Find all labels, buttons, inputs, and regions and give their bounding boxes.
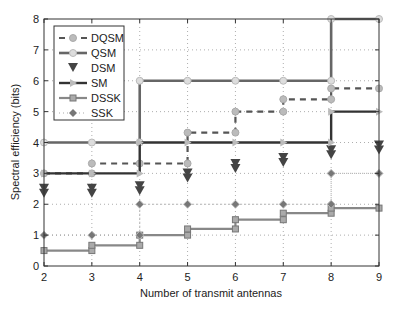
square-marker xyxy=(137,242,143,248)
triangle-down-marker xyxy=(326,150,336,159)
square-marker xyxy=(70,95,76,101)
circle-marker xyxy=(280,108,287,115)
diamond-marker xyxy=(136,200,144,208)
triangle-right-marker xyxy=(232,139,239,147)
y-tick-label: 5 xyxy=(33,106,39,118)
circle-marker xyxy=(232,129,239,136)
series-dsm xyxy=(39,141,384,198)
series-dssk xyxy=(41,205,382,253)
x-tick-label: 8 xyxy=(328,271,334,283)
triangle-down-marker xyxy=(230,164,240,173)
legend: DQSMQSMDSMSMDSSKSSK xyxy=(54,26,124,120)
star-marker xyxy=(328,77,335,84)
square-marker xyxy=(280,210,286,216)
diamond-marker xyxy=(327,169,335,177)
triangle-down-marker xyxy=(87,189,97,198)
spectral-efficiency-chart: 23456789012345678 Number of transmit ant… xyxy=(0,0,398,312)
legend-label-dqsm: DQSM xyxy=(91,32,124,44)
x-tick-label: 3 xyxy=(89,271,95,283)
circle-marker xyxy=(328,85,335,92)
star-marker xyxy=(88,139,95,146)
square-marker xyxy=(232,217,238,223)
triangle-down-marker xyxy=(183,173,193,182)
square-marker xyxy=(89,242,95,248)
y-tick-label: 1 xyxy=(33,229,39,241)
diamond-marker xyxy=(184,200,192,208)
triangle-right-marker xyxy=(280,139,287,147)
star-marker xyxy=(184,77,191,84)
circle-marker xyxy=(184,129,191,136)
y-tick-label: 8 xyxy=(33,13,39,25)
y-tick-label: 2 xyxy=(33,198,39,210)
star-marker xyxy=(70,50,77,57)
triangle-down-marker xyxy=(278,158,288,167)
star-marker xyxy=(232,77,239,84)
y-tick-label: 6 xyxy=(33,75,39,87)
square-marker xyxy=(185,232,191,238)
diamond-marker xyxy=(279,200,287,208)
circle-marker xyxy=(232,108,239,115)
x-tick-label: 6 xyxy=(232,271,238,283)
y-tick-label: 4 xyxy=(33,137,39,149)
legend-label-dssk: DSSK xyxy=(91,92,122,104)
star-marker xyxy=(136,77,143,84)
legend-label-ssk: SSK xyxy=(91,107,114,119)
x-axis-label: Number of transmit antennas xyxy=(140,287,282,299)
y-tick-label: 3 xyxy=(33,167,39,179)
diamond-marker xyxy=(88,231,96,239)
x-tick-label: 4 xyxy=(137,271,143,283)
circle-marker xyxy=(88,160,95,167)
legend-label-sm: SM xyxy=(91,77,108,89)
y-tick-label: 7 xyxy=(33,44,39,56)
x-tick-label: 9 xyxy=(376,271,382,283)
square-marker xyxy=(232,226,238,232)
circle-marker xyxy=(184,160,191,167)
x-tick-label: 7 xyxy=(280,271,286,283)
y-tick-label: 0 xyxy=(33,260,39,272)
square-marker xyxy=(185,226,191,232)
y-axis-label: Spectral efficiency (bits) xyxy=(9,84,21,201)
legend-label-qsm: QSM xyxy=(91,47,116,59)
square-marker xyxy=(280,217,286,223)
x-tick-label: 2 xyxy=(41,271,47,283)
circle-marker xyxy=(280,96,287,103)
x-tick-label: 5 xyxy=(185,271,191,283)
circle-marker xyxy=(328,96,335,103)
diamond-marker xyxy=(231,200,239,208)
star-marker xyxy=(280,77,287,84)
triangle-down-marker xyxy=(135,186,145,195)
legend-label-dsm: DSM xyxy=(91,62,115,74)
circle-marker xyxy=(70,35,77,42)
